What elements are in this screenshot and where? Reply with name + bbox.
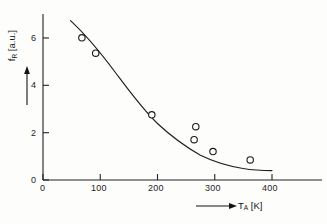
fit-curve bbox=[71, 21, 273, 171]
x-tick-label: 200 bbox=[148, 183, 164, 193]
x-tick-label: 400 bbox=[262, 183, 278, 193]
x-axis-subscript: A bbox=[244, 204, 248, 211]
x-axis-unit: [K] bbox=[251, 200, 263, 211]
x-tick-label: 100 bbox=[91, 183, 107, 193]
data-point bbox=[79, 35, 85, 41]
x-tick-label: 0 bbox=[40, 183, 45, 193]
y-axis-unit: [a.u.] bbox=[6, 30, 17, 51]
data-point bbox=[191, 137, 197, 143]
data-point bbox=[193, 124, 199, 130]
data-point bbox=[247, 157, 253, 163]
data-markers bbox=[79, 35, 254, 164]
x-axis-title: TA [K] bbox=[238, 200, 262, 211]
chart-figure: 0 2 4 6 0 100 200 300 400 fR [a.u.] TA [… bbox=[0, 0, 327, 224]
data-point bbox=[210, 148, 216, 154]
y-tick-label: 4 bbox=[31, 80, 36, 90]
data-point bbox=[93, 50, 99, 56]
y-tick-label: 6 bbox=[31, 33, 36, 43]
data-point bbox=[149, 112, 155, 118]
y-axis-arrow-icon bbox=[24, 66, 30, 105]
y-axis-ticks bbox=[43, 38, 49, 180]
x-axis-arrow-icon bbox=[196, 203, 237, 209]
y-tick-label: 2 bbox=[31, 128, 36, 138]
y-axis-title: fR [a.u.] bbox=[2, 14, 20, 86]
x-axis-ticks bbox=[43, 174, 272, 180]
x-tick-label: 300 bbox=[205, 183, 221, 193]
y-axis-symbol: f bbox=[6, 59, 17, 62]
y-tick-label: 0 bbox=[31, 175, 36, 185]
y-axis-subscript: R bbox=[11, 54, 18, 59]
